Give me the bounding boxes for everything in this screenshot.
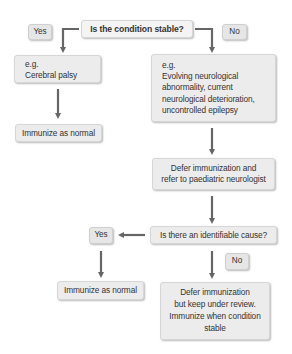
defer-refer-box: Defer immunization and refer to paediatr… [152,158,275,190]
arrow-q1-yes [63,29,79,50]
immunize-text: Immunize as normal [22,128,95,139]
question-text: Is there an identifiable cause? [160,230,267,241]
unstable-example-line: uncontrolled epilepsy [162,105,275,116]
immunize-as-normal-box-1: Immunize as normal [15,124,102,142]
stable-example-line: Cerebral palsy [25,70,100,81]
yes-label-1: Yes [28,24,52,40]
stable-example-line: e.g. [25,59,100,70]
defer-review-line: but keep under review. [174,299,255,311]
unstable-example-line: e.g. [162,60,275,71]
question-text: Is the condition stable? [90,24,184,35]
no-label-2: No [225,253,249,270]
unstable-example-line: neurological deterioration, [162,94,275,105]
unstable-example-line: abnormality, current [162,82,275,93]
question-condition-stable: Is the condition stable? [81,20,193,38]
no-label-1: No [222,24,247,40]
defer-refer-line: refer to paediatric neurologist [161,174,265,185]
immunize-text: Immunize as normal [64,285,137,296]
defer-review-line: stable [204,323,226,335]
no-text: No [232,256,242,267]
stable-example-box: e.g. Cerebral palsy [14,55,101,83]
unstable-example-box: e.g. Evolving neurological abnormality, … [151,54,276,122]
unstable-example-line: Evolving neurological [162,71,275,82]
no-text: No [229,27,239,38]
defer-review-line: Immunize when condition [169,311,260,323]
defer-review-box: Defer immunization but keep under review… [160,282,270,340]
arrow-q1-no [195,29,212,50]
yes-label-2: Yes [89,227,113,244]
defer-review-line: Defer immunization [180,287,250,299]
question-identifiable-cause: Is there an identifiable cause? [150,226,277,244]
immunize-as-normal-box-2: Immunize as normal [57,281,144,300]
yes-text: Yes [94,230,107,241]
yes-text: Yes [33,27,46,38]
defer-refer-line: Defer immunization and [171,163,256,174]
